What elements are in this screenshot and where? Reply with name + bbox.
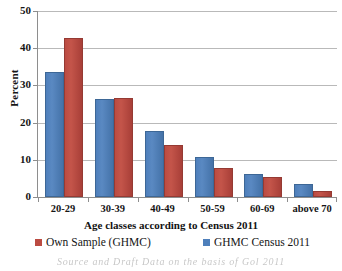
y-axis-tick-label: 30 [5,78,31,90]
legend-swatch-own-sample [35,239,42,246]
bar-own-sample-20-29 [64,38,83,197]
y-axis-tick [33,85,38,86]
y-axis-tick [33,123,38,124]
bar-ghmc-census-20-29 [45,72,64,197]
bar-ghmc-census-above-70 [294,184,313,197]
y-axis-tick-label: 10 [5,153,31,165]
legend-label-own-sample: Own Sample (GHMC) [46,236,151,248]
bar-group [287,11,337,197]
bar-own-sample-30-39 [114,98,133,197]
x-axis-tick [336,197,337,202]
bar-own-sample-60-69 [263,177,282,197]
y-axis-tick-label: 40 [5,41,31,53]
bar-own-sample-50-59 [214,168,233,197]
plot-area [38,11,337,197]
bar-group [188,11,238,197]
chart-legend: Own Sample (GHMC) GHMC Census 2011 [0,236,342,252]
x-axis-label-20-29: 20-29 [38,203,88,214]
bar-chart-figure: Percent 01020304050 20-2930-3940-4950-59… [0,0,342,271]
x-axis-tick [138,197,139,202]
y-axis-tick [33,160,38,161]
legend-item-ghmc-census: GHMC Census 2011 [203,236,310,248]
y-axis-tick [33,11,38,12]
x-axis-tick [38,197,39,202]
x-axis-label-above-70: above 70 [287,203,337,214]
legend-swatch-ghmc-census [203,239,210,246]
legend-item-own-sample: Own Sample (GHMC) [35,236,151,248]
bar-ghmc-census-40-49 [145,131,164,197]
x-axis-label-30-39: 30-39 [88,203,138,214]
x-axis-tick-labels: 20-2930-3940-4950-5960-69above 70 [38,203,337,219]
y-axis-tick-label: 0 [5,190,31,202]
y-axis-tick-label: 50 [5,4,31,16]
x-axis-tick [188,197,189,202]
legend-label-ghmc-census: GHMC Census 2011 [214,236,310,248]
bar-own-sample-40-49 [164,145,183,197]
source-caption: Source and Draft Data on the basis of Go… [0,256,342,267]
x-axis-label-60-69: 60-69 [237,203,287,214]
bars-layer [38,11,337,197]
bar-group [88,11,138,197]
x-axis-label-40-49: 40-49 [138,203,188,214]
x-axis-label-50-59: 50-59 [188,203,238,214]
y-axis-tick-label: 20 [5,116,31,128]
x-axis-title: Age classes according to Census 2011 [0,219,342,231]
x-axis-tick [237,197,238,202]
bar-group [138,11,188,197]
bar-ghmc-census-50-59 [195,157,214,197]
y-axis-tick [33,48,38,49]
x-axis-tick [287,197,288,202]
bar-ghmc-census-30-39 [95,99,114,197]
x-axis-tick [88,197,89,202]
bar-ghmc-census-60-69 [244,174,263,197]
bar-group [38,11,88,197]
bar-group [237,11,287,197]
